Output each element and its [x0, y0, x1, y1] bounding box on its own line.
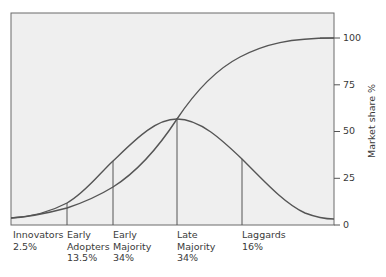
label-early-adopters-share: 13.5% — [67, 252, 110, 264]
label-early-adopters-line2: Adopters — [67, 241, 110, 253]
label-early-adopters-line1: Early — [67, 229, 110, 241]
label-laggards: Laggards 16% — [242, 229, 286, 252]
label-early-majority-line1: Early — [113, 229, 151, 241]
label-early-majority: Early Majority 34% — [113, 229, 151, 264]
tick-25: 25 — [343, 172, 355, 183]
label-late-majority-line1: Late — [177, 229, 215, 241]
label-early-majority-line2: Majority — [113, 241, 151, 253]
label-late-majority-share: 34% — [177, 252, 215, 264]
label-laggards-share: 16% — [242, 241, 286, 253]
label-innovators: Innovators 2.5% — [13, 229, 64, 252]
tick-50: 50 — [343, 125, 355, 136]
label-laggards-name: Laggards — [242, 229, 286, 241]
tick-75: 75 — [343, 79, 355, 90]
tick-0: 0 — [343, 219, 349, 230]
y-axis-title: Market share % — [366, 84, 377, 158]
label-early-adopters: Early Adopters 13.5% — [67, 229, 110, 264]
label-late-majority: Late Majority 34% — [177, 229, 215, 264]
label-early-majority-share: 34% — [113, 252, 151, 264]
label-innovators-share: 2.5% — [13, 241, 64, 253]
label-innovators-name: Innovators — [13, 229, 64, 241]
tick-100: 100 — [343, 32, 361, 43]
label-late-majority-line2: Majority — [177, 241, 215, 253]
